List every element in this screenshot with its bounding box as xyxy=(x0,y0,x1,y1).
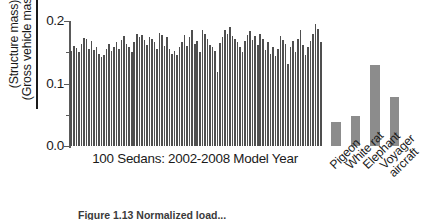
bar-sedan xyxy=(272,47,274,146)
bar-sedan xyxy=(96,47,98,146)
bar-sedan xyxy=(106,49,108,146)
bar-sedan xyxy=(70,51,72,146)
y-tick-label-0.0: 0.0 xyxy=(24,138,64,153)
bar-sedan xyxy=(126,44,128,147)
bar-sedan xyxy=(212,47,214,146)
bar-sedan xyxy=(209,45,211,146)
bar-sedan xyxy=(320,42,322,146)
bar-sedan xyxy=(194,44,196,146)
bar-sedan xyxy=(252,40,254,146)
bar-sedan xyxy=(219,43,221,146)
bar-sedan xyxy=(277,49,279,147)
bar-sedan xyxy=(207,39,209,146)
bar-sedan xyxy=(257,45,259,146)
bar-sedan xyxy=(227,34,229,147)
bar-sedan xyxy=(176,55,178,146)
bar-sedan xyxy=(287,64,289,147)
bar-sedan xyxy=(270,54,272,147)
bar-sedan xyxy=(310,41,312,146)
bar-sedan xyxy=(189,37,191,146)
bar-sedan xyxy=(179,47,181,146)
bar-sedan xyxy=(169,49,171,147)
bar-sedan xyxy=(83,38,85,146)
bar-sedan xyxy=(149,37,151,146)
bar-sedan xyxy=(186,46,188,146)
bar-sedan xyxy=(315,24,317,147)
bar-sedan xyxy=(116,42,118,146)
bar-sedan xyxy=(312,34,314,147)
bar-sedan xyxy=(254,36,256,146)
bar-sedan xyxy=(300,30,302,146)
bar-sedan xyxy=(161,35,163,146)
bar-sedan xyxy=(302,45,304,146)
bar-sedan xyxy=(113,47,115,146)
y-tick-minor-0.15 xyxy=(66,52,70,53)
bar-sedan xyxy=(151,39,153,146)
y-tick-label-0.2: 0.2 xyxy=(24,13,64,28)
bar-sedan xyxy=(265,50,267,146)
bar-sedan xyxy=(111,51,113,146)
bar-sedan xyxy=(174,51,176,146)
bar-sedan xyxy=(159,33,161,146)
bar-sedan xyxy=(81,44,83,146)
x-axis-line xyxy=(69,146,71,148)
bar-sedan xyxy=(239,47,241,146)
bar-sedan xyxy=(247,35,249,146)
bar-sedan xyxy=(93,50,95,146)
bar-sedan xyxy=(76,48,78,146)
plot-area xyxy=(70,21,411,146)
bar-pigeon xyxy=(331,122,341,146)
bar-sedan xyxy=(307,47,309,146)
figure-caption: Figure 1.13 Normalized load... xyxy=(78,209,378,220)
bar-sedan xyxy=(217,72,219,146)
bar-sedan xyxy=(234,39,236,147)
bar-sedan xyxy=(259,34,261,147)
bar-sedan xyxy=(108,44,110,146)
y-tick-minor-0.05 xyxy=(66,115,70,116)
bar-sedan xyxy=(131,52,133,146)
bar-sedan xyxy=(297,39,299,147)
bar-sedan xyxy=(86,39,88,147)
bar-sedan xyxy=(267,42,269,146)
bar-sedan xyxy=(154,42,156,146)
bar-sedan xyxy=(262,39,264,147)
x-axis-label: 100 Sedans: 2002-2008 Model Year xyxy=(69,151,321,166)
bar-sedan xyxy=(244,41,246,146)
bar-sedan xyxy=(249,31,251,146)
bar-sedan xyxy=(222,37,224,146)
bar-sedan xyxy=(199,52,201,146)
bar-sedan xyxy=(237,42,239,146)
bar-sedan xyxy=(214,51,216,146)
bar-sedan xyxy=(196,41,198,146)
bar-sedan xyxy=(88,49,90,147)
bar-sedan xyxy=(144,40,146,146)
y-tick-mark-0.1 xyxy=(64,84,69,85)
bar-sedan xyxy=(166,37,168,146)
bar-sedan xyxy=(184,35,186,146)
bar-sedan xyxy=(181,42,183,146)
bar-sedan xyxy=(305,55,307,146)
bar-sedan xyxy=(139,37,141,146)
bar-sedan xyxy=(164,46,166,146)
bar-sedan xyxy=(242,52,244,146)
bar-sedan xyxy=(146,45,148,146)
bar-sedan xyxy=(128,47,130,146)
bar-sedan xyxy=(91,41,93,146)
bar-sedan xyxy=(224,30,226,146)
bar-sedan xyxy=(191,30,193,146)
y-tick-label-0.1: 0.1 xyxy=(24,76,64,91)
bar-sedan xyxy=(118,49,120,146)
y-tick-mark-0.2 xyxy=(64,21,69,22)
bar-sedan xyxy=(123,36,125,146)
bar-sedan xyxy=(78,52,80,146)
bar-sedan xyxy=(98,54,100,147)
bar-sedan xyxy=(171,54,173,147)
bar-sedan xyxy=(101,57,103,146)
bar-sedan xyxy=(156,49,158,146)
bar-sedan xyxy=(133,42,135,146)
bar-sedan xyxy=(285,44,287,147)
bar-sedan xyxy=(232,36,234,146)
bar-sedan xyxy=(317,29,319,147)
bar-sedan xyxy=(282,40,284,146)
